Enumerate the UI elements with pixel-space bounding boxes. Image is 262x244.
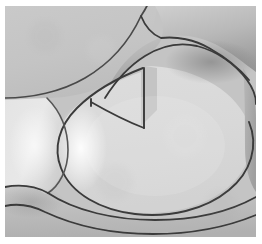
- arm-shadow: [165, 40, 256, 84]
- left-cell-highlight: [9, 106, 61, 186]
- micrograph-plate: [5, 6, 256, 237]
- micrograph-svg: [5, 6, 256, 237]
- micrograph-figure: [0, 0, 262, 244]
